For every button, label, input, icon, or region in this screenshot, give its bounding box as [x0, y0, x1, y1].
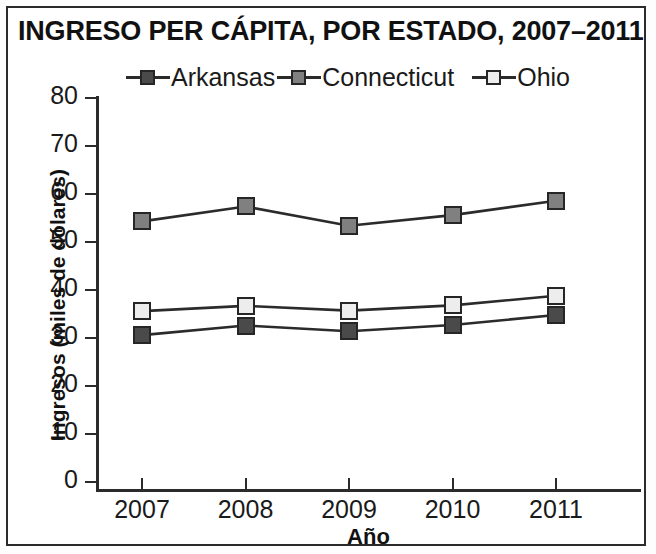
data-point-ohio-2011: [547, 287, 565, 305]
data-point-arkansas-2008: [237, 317, 255, 335]
series-lines: [8, 8, 656, 554]
data-point-connecticut-2007: [133, 212, 151, 230]
data-point-connecticut-2010: [444, 206, 462, 224]
data-point-arkansas-2009: [340, 322, 358, 340]
data-point-ohio-2008: [237, 297, 255, 315]
y-axis-label: Ingresos (miles de dólares): [46, 115, 70, 495]
data-point-arkansas-2007: [133, 326, 151, 344]
data-point-ohio-2009: [340, 302, 358, 320]
x-axis-label: Año: [96, 524, 641, 550]
data-point-connecticut-2011: [547, 192, 565, 210]
data-point-ohio-2010: [444, 296, 462, 314]
data-point-connecticut-2008: [237, 197, 255, 215]
chart-figure: INGRESO PER CÁPITA, POR ESTADO, 2007–201…: [0, 0, 656, 554]
chart-frame: INGRESO PER CÁPITA, POR ESTADO, 2007–201…: [6, 6, 646, 546]
data-point-ohio-2007: [133, 302, 151, 320]
data-point-connecticut-2009: [340, 217, 358, 235]
data-point-arkansas-2010: [444, 316, 462, 334]
plot-area: 01020304050607080 20072008200920102011 I…: [8, 8, 656, 554]
data-point-arkansas-2011: [547, 306, 565, 324]
